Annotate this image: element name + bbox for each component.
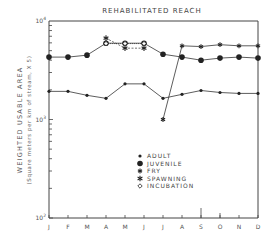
legend-item-incubation: INCUBATION [138,182,194,189]
x-tick-label: A [104,223,109,230]
y-tick-labels: 104 103 102 [35,16,46,221]
y-tick-1k: 103 [35,115,46,123]
x-tick-label: D [256,223,261,230]
legend-item-spawning: SPAWNING [138,175,188,182]
x-tick-label: S [199,223,203,230]
series-juvenile [46,40,261,63]
x-tick-label: A [180,223,185,230]
x-tick-label: M [84,223,89,230]
y-axis-sublabel: (Square meters per km of stream, X 5) [26,56,33,185]
series-adult [47,82,259,100]
legend-label: ADULT [147,152,171,159]
legend: ADULTJUVENILEFRYSPAWNINGINCUBATION [137,152,194,189]
legend-item-fry: FRY [138,167,161,174]
x-tick-labels: JFMAMJJASOND [47,223,261,231]
x-tick-label: J [161,223,164,231]
chart: REHABILITATED REACH 104 103 102 WEIGHTED… [0,0,268,239]
legend-label: SPAWNING [147,175,187,182]
x-tick-label: F [66,223,70,230]
x-tick-label: J [142,223,145,231]
legend-item-adult: ADULT [138,152,171,159]
series-layer [46,35,261,122]
y-tick-100: 102 [35,213,46,221]
legend-label: FRY [147,167,161,174]
y-tick-10k: 104 [35,16,46,24]
chart-title: REHABILITATED REACH [102,7,202,15]
x-tick-label: N [237,223,242,230]
legend-label: INCUBATION [147,182,194,189]
y-axis-label: WEIGHTED USABLE AREA [16,67,24,174]
x-tick-label: O [218,223,223,230]
x-tick-label: M [122,223,127,230]
x-tick-label: J [47,223,50,231]
series-fry [161,42,260,122]
x-ticks [49,208,258,218]
